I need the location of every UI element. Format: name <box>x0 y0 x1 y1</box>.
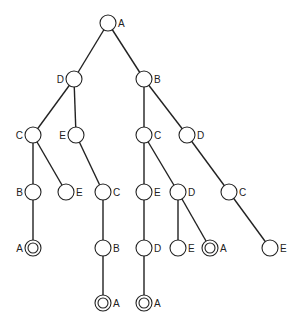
node-circle <box>95 295 111 311</box>
tree-edge <box>229 192 270 248</box>
node-label: B <box>16 187 23 198</box>
node-label: E <box>76 187 83 198</box>
node-label: E <box>59 130 66 141</box>
node-circle <box>136 240 152 256</box>
node-label: C <box>113 187 120 198</box>
node-circle <box>25 184 41 200</box>
tree-node: D <box>170 184 195 200</box>
node-label: D <box>154 243 161 254</box>
tree-edge <box>74 23 108 79</box>
tree-edge <box>178 192 210 248</box>
tree-node: C <box>16 127 41 143</box>
node-circle <box>136 295 152 311</box>
node-label: E <box>280 243 287 254</box>
node-label: B <box>154 74 161 85</box>
tree-node: D <box>136 240 161 256</box>
node-circle <box>95 184 111 200</box>
node-label: E <box>188 243 195 254</box>
tree-node: D <box>57 71 82 87</box>
accepting-node: A <box>16 240 41 256</box>
tree-edge <box>76 135 103 192</box>
node-circle <box>58 184 74 200</box>
node-label: A <box>154 298 161 309</box>
accepting-node: A <box>95 295 120 311</box>
node-label: C <box>239 187 246 198</box>
node-label: A <box>113 298 120 309</box>
node-circle <box>68 127 84 143</box>
tree-node: A <box>100 15 125 31</box>
node-circle <box>202 240 218 256</box>
tree-diagram: ADBCECDBECEDCABDEAEAA <box>0 0 305 331</box>
node-circle <box>100 15 116 31</box>
tree-node: E <box>58 184 83 200</box>
edges <box>33 23 270 303</box>
accepting-node: A <box>202 240 227 256</box>
tree-node: C <box>221 184 246 200</box>
tree-node: D <box>179 127 204 143</box>
tree-node: E <box>262 240 287 256</box>
node-circle <box>95 240 111 256</box>
tree-edge <box>187 135 229 192</box>
node-label: E <box>154 187 161 198</box>
tree-node: E <box>170 240 195 256</box>
node-label: B <box>113 243 120 254</box>
tree-edge <box>144 79 187 135</box>
node-circle <box>179 127 195 143</box>
node-circle <box>170 240 186 256</box>
tree-edge <box>144 135 178 192</box>
node-circle <box>136 71 152 87</box>
node-circle <box>136 127 152 143</box>
tree-edge <box>108 23 144 79</box>
accepting-node: A <box>136 295 161 311</box>
tree-node: B <box>16 184 41 200</box>
tree-edge <box>33 135 66 192</box>
node-label: C <box>154 130 161 141</box>
node-label: A <box>16 243 23 254</box>
node-label: A <box>220 243 227 254</box>
node-circle <box>25 240 41 256</box>
node-circle <box>170 184 186 200</box>
node-label: D <box>188 187 195 198</box>
node-circle <box>262 240 278 256</box>
tree-node: C <box>136 127 161 143</box>
node-label: D <box>197 130 204 141</box>
node-circle <box>221 184 237 200</box>
tree-node: B <box>136 71 161 87</box>
tree-edge <box>33 79 74 135</box>
tree-node: B <box>95 240 120 256</box>
tree-node: E <box>136 184 161 200</box>
node-circle <box>136 184 152 200</box>
node-circle <box>66 71 82 87</box>
node-circle <box>25 127 41 143</box>
tree-node: E <box>59 127 84 143</box>
nodes: ADBCECDBECEDCABDEAEAA <box>16 15 287 311</box>
node-label: C <box>16 130 23 141</box>
tree-node: C <box>95 184 120 200</box>
node-label: D <box>57 74 64 85</box>
node-label: A <box>118 18 125 29</box>
